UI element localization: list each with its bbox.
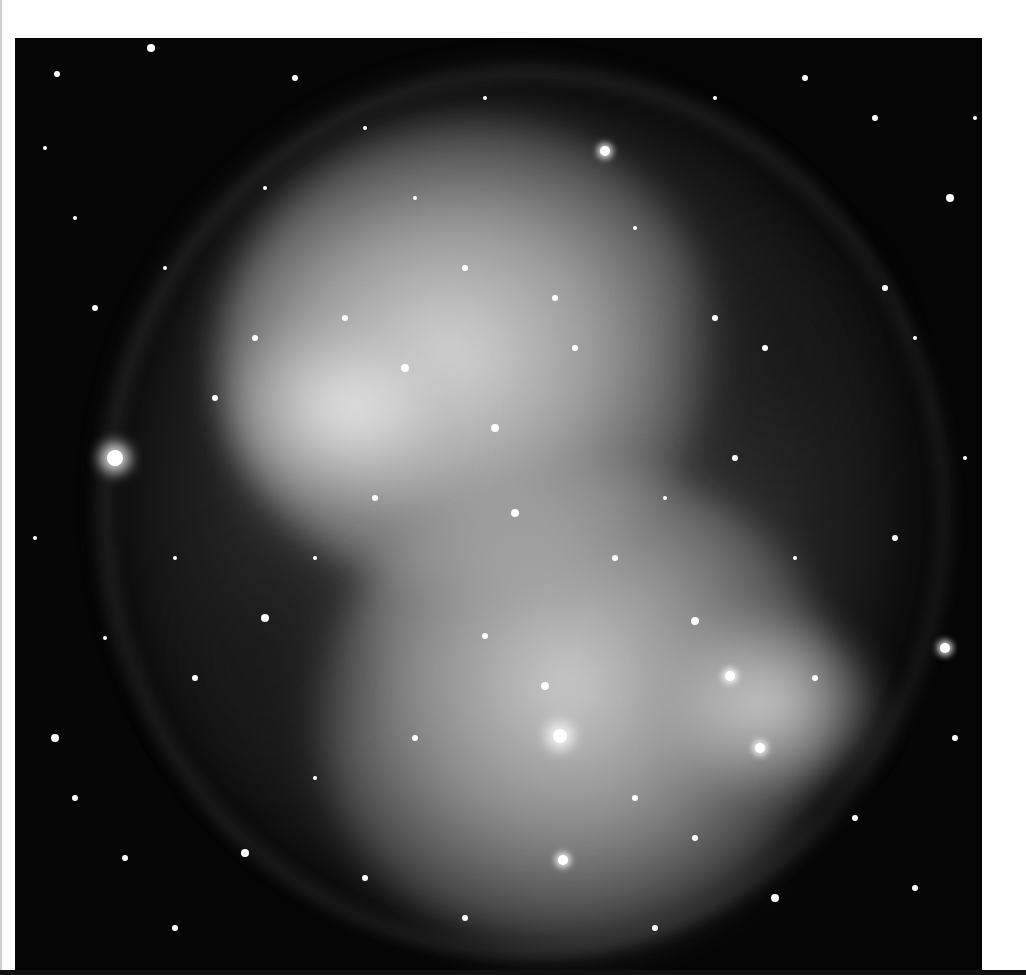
star	[572, 345, 578, 351]
star	[241, 849, 249, 857]
star	[793, 556, 797, 560]
star	[762, 345, 768, 351]
star	[913, 336, 917, 340]
star	[600, 146, 610, 156]
star	[491, 424, 499, 432]
star	[541, 682, 549, 690]
nebula-left-wing	[235, 318, 465, 498]
star	[612, 555, 618, 561]
star	[692, 835, 698, 841]
star	[946, 194, 954, 202]
star	[252, 335, 258, 341]
star	[173, 556, 177, 560]
star	[462, 915, 468, 921]
star	[912, 885, 918, 891]
star	[882, 285, 888, 291]
star	[122, 855, 128, 861]
star	[558, 855, 568, 865]
star	[691, 617, 699, 625]
star	[713, 96, 717, 100]
star	[952, 735, 958, 741]
star	[462, 265, 468, 271]
star	[261, 614, 269, 622]
bottom-border	[0, 970, 1026, 975]
star	[940, 643, 950, 653]
star	[363, 126, 367, 130]
star	[33, 536, 37, 540]
star	[482, 633, 488, 639]
star	[872, 115, 878, 121]
star	[802, 75, 808, 81]
star	[633, 226, 637, 230]
star	[192, 675, 198, 681]
star	[401, 364, 409, 372]
star	[43, 146, 47, 150]
star	[553, 729, 567, 743]
star	[725, 671, 735, 681]
page-left-edge	[0, 0, 2, 975]
star	[812, 675, 818, 681]
star	[147, 44, 155, 52]
star	[973, 116, 977, 120]
star	[92, 305, 98, 311]
star	[712, 315, 718, 321]
star	[755, 743, 765, 753]
nebula-right-wing	[655, 618, 875, 788]
star	[732, 455, 738, 461]
star	[292, 75, 298, 81]
star	[54, 71, 60, 77]
star	[72, 795, 78, 801]
star	[51, 734, 59, 742]
star	[632, 795, 638, 801]
star	[107, 450, 123, 466]
nebula-photo	[15, 38, 982, 970]
star	[663, 496, 667, 500]
star	[892, 535, 898, 541]
star	[552, 295, 558, 301]
nebula-dark-region-left	[135, 508, 395, 808]
star	[362, 875, 368, 881]
star	[313, 556, 317, 560]
star	[652, 925, 658, 931]
star	[372, 495, 378, 501]
star	[103, 636, 107, 640]
star	[413, 196, 417, 200]
star	[771, 894, 779, 902]
star	[342, 315, 348, 321]
star	[511, 509, 519, 517]
star	[212, 395, 218, 401]
star	[483, 96, 487, 100]
star	[852, 815, 858, 821]
star	[73, 216, 77, 220]
star	[313, 776, 317, 780]
star	[412, 735, 418, 741]
star	[263, 186, 267, 190]
star	[163, 266, 167, 270]
star	[963, 456, 967, 460]
star	[172, 925, 178, 931]
nebula-dark-region-right	[655, 198, 915, 518]
